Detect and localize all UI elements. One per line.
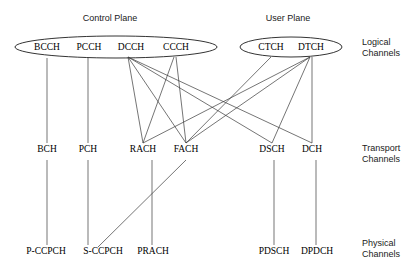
connection-lines-transport-physical [47,160,316,247]
transport-channel-labels: BCH PCH RACH FACH DSCH DCH [37,144,322,154]
physical-channel-prach: PRACH [137,246,169,256]
physical-channel-pdsch: PDSCH [259,246,290,256]
connection-dcch-rach [128,57,143,143]
connection-fach-sccpch [98,160,186,247]
connection-dtch-fach [186,57,310,143]
plane-titles: Control Plane User Plane [83,13,311,23]
physical-channel-dpdch: DPDCH [301,246,333,256]
logical-channel-ccch: CCCH [163,42,189,52]
physical-channel-s-ccpch: S-CCPCH [83,246,123,256]
row-label-transport-line1: Transport [362,143,401,153]
transport-channel-fach: FACH [174,144,199,154]
logical-channel-bcch: BCCH [34,42,60,52]
logical-channel-pcch: PCCH [77,42,102,52]
logical-channel-dcch: DCCH [118,42,145,52]
plane-title-user: User Plane [266,13,311,23]
connection-lines-logical-transport [47,57,312,143]
user-plane-ellipse [240,37,342,57]
transport-channel-bch: BCH [37,144,57,154]
physical-channel-labels: P-CCPCH S-CCPCH PRACH PDSCH DPDCH [26,246,333,256]
logical-channel-ctch: CTCH [258,42,283,52]
logical-channel-labels: BCCH PCCH DCCH CCCH CTCH DTCH [34,42,324,52]
connection-ctch-fach [186,57,271,143]
row-label-transport-line2: Channels [362,154,401,164]
transport-channel-pch: PCH [79,144,98,154]
row-label-logical-line1: Logical [362,37,391,47]
physical-channel-p-ccpch: P-CCPCH [26,246,66,256]
row-labels: Logical Channels Transport Channels Phys… [362,37,401,259]
row-label-physical-line1: Physical [362,238,396,248]
transport-channel-dsch: DSCH [259,144,284,154]
row-label-physical-line2: Channels [362,249,401,259]
logical-channel-dtch: DTCH [298,42,324,52]
plane-title-control: Control Plane [83,13,138,23]
row-label-logical-line2: Channels [362,48,401,58]
transport-channel-rach: RACH [130,144,157,154]
channel-mapping-diagram: Control Plane User Plane [0,0,415,271]
diagram-canvas: Control Plane User Plane [0,0,415,271]
connection-ccch-rach [143,57,174,143]
transport-channel-dch: DCH [302,144,322,154]
connection-dcch-dsch [128,57,272,143]
